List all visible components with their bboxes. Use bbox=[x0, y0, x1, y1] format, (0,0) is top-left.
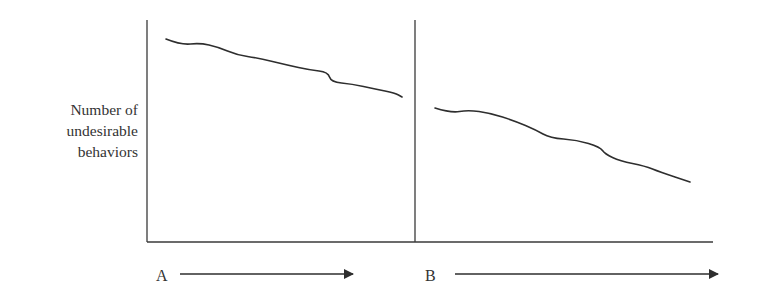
phase-b-label: B bbox=[425, 267, 436, 285]
data-series bbox=[166, 39, 690, 182]
y-axis-label-line: undesirable bbox=[67, 120, 138, 141]
phase-a-line bbox=[166, 39, 402, 97]
y-axis-label-line: Number of bbox=[67, 99, 138, 120]
phase-b-line bbox=[435, 108, 690, 182]
y-axis-label-line: behaviors bbox=[67, 141, 138, 162]
phase-a-label: A bbox=[156, 267, 168, 285]
y-axis-label: Number of undesirable behaviors bbox=[67, 99, 138, 162]
